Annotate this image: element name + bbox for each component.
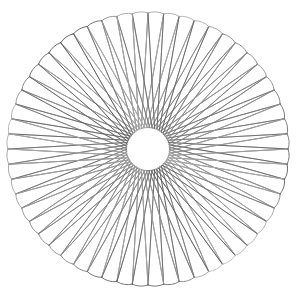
chord-rosette-figure xyxy=(0,0,298,303)
figure-stage xyxy=(0,0,298,303)
